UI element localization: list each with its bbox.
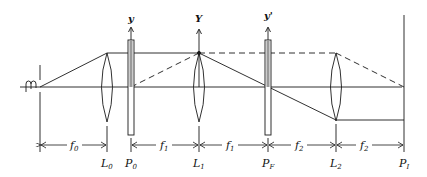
dimension-f0: f0 xyxy=(69,139,79,153)
dimension-lines xyxy=(41,142,403,148)
dimension-f1-b: f1 xyxy=(225,139,235,153)
ray-paths xyxy=(40,53,404,120)
plate-P0 xyxy=(128,27,134,152)
dimension-f2-a: f2 xyxy=(294,139,304,153)
label-L0: L0 xyxy=(100,157,113,171)
label-PF: PF xyxy=(261,157,275,171)
lens-L1 xyxy=(194,29,205,152)
light-source-icon xyxy=(26,81,36,92)
optical-system-diagram: y Y y' xyxy=(0,0,427,177)
axis-label-y: y xyxy=(127,13,135,24)
plate-PF xyxy=(265,27,271,152)
label-L2: L2 xyxy=(329,157,342,171)
label-L1: L1 xyxy=(192,157,205,171)
axis-label-Y: Y xyxy=(195,13,203,24)
lens-L0 xyxy=(102,53,113,152)
axis-label-y-prime: y' xyxy=(263,10,273,21)
lens-L2 xyxy=(331,53,342,152)
dimension-f1-a: f1 xyxy=(159,139,169,153)
label-P0: P0 xyxy=(124,157,137,171)
label-Pf: PI xyxy=(398,157,409,171)
dimension-f2-b: f2 xyxy=(359,139,369,153)
